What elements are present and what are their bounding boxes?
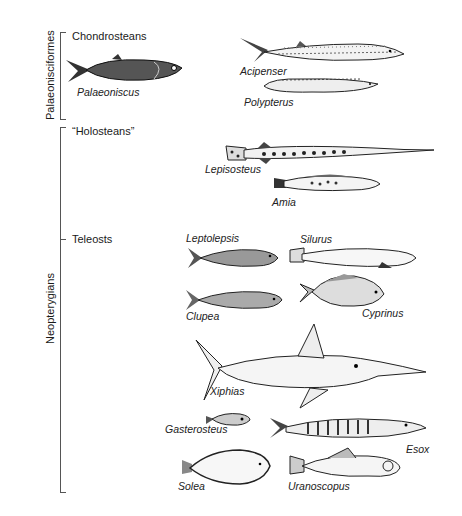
teleosts-label: Teleosts	[72, 233, 112, 245]
teleosts-tick	[61, 239, 66, 240]
amia-fish-illustration	[272, 172, 382, 194]
neopterygians-label: Neopterygians	[44, 273, 56, 344]
esox-label: Esox	[406, 443, 429, 455]
lepisosteus-label: Lepisosteus	[205, 163, 261, 175]
clupea-label: Clupea	[186, 310, 219, 322]
palaeoniscus-label: Palaeoniscus	[77, 86, 139, 98]
esox-fish-illustration	[268, 412, 428, 446]
palaeoniscus-fish-illustration	[64, 52, 186, 88]
uranoscopus-label: Uranoscopus	[288, 480, 350, 492]
leptolepsis-label: Leptolepsis	[186, 232, 239, 244]
uranoscopus-fish-illustration	[288, 444, 408, 484]
silurus-fish-illustration	[288, 240, 418, 270]
acipenser-fish-illustration	[238, 36, 408, 66]
cyprinus-label: Cyprinus	[362, 307, 403, 319]
holosteans-label: “Holosteans”	[72, 125, 134, 137]
clupea-fish-illustration	[184, 288, 284, 312]
neopterygians-bracket	[60, 127, 66, 493]
cyprinus-fish-illustration	[298, 272, 388, 312]
leptolepsis-fish-illustration	[186, 246, 280, 270]
xiphias-label: Xiphias	[210, 385, 244, 397]
amia-label: Amia	[272, 196, 296, 208]
palaeonisciformes-label: Palaeonisciformes	[44, 30, 56, 120]
polypterus-label: Polypterus	[244, 96, 294, 108]
polypterus-fish-illustration	[262, 76, 382, 96]
solea-label: Solea	[178, 480, 205, 492]
chondrosteans-label: Chondrosteans	[72, 30, 147, 42]
gasterosteus-label: Gasterosteus	[165, 423, 227, 435]
